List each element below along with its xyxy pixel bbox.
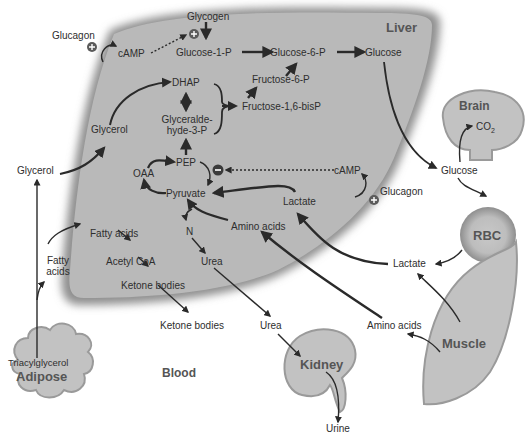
amino-acids-liver-label: Amino acids: [231, 221, 285, 232]
organ-rbc-label: RBC: [473, 228, 501, 243]
plus-icon-glucagon-top: [87, 42, 97, 52]
organ-kidney-label: Kidney: [300, 357, 343, 372]
organ-brain-label: Brain: [459, 99, 490, 113]
metabolism-diagram: Liver Brain RBC Muscle Kidney Adipose Bl…: [0, 0, 529, 442]
glucose-6-p-label: Glucose-6-P: [270, 47, 326, 58]
glucose-blood-label: Glucose: [441, 165, 478, 176]
glycogen-label: Glycogen: [187, 11, 229, 22]
ketone-bodies-liver-label: Ketone bodies: [121, 280, 185, 291]
fatty-acids-blood-label: Fatty acids: [44, 255, 72, 277]
camp-top-label: cAMP: [118, 48, 145, 59]
pyruvate-label: Pyruvate: [166, 188, 205, 199]
glyceraldehyde-3-p-label: Glyceralde- hyde-3-P: [158, 114, 216, 136]
pep-label: PEP: [176, 157, 196, 168]
fructose-16-bisp-label: Fructose-1,6-bisP: [242, 101, 321, 112]
organ-adipose-label: Adipose: [16, 369, 67, 384]
co2-subscript: 2: [491, 127, 495, 134]
glycerol-liver-label: Glycerol: [91, 124, 128, 135]
amino-acids-blood-label: Amino acids: [367, 320, 421, 331]
fructose-6-p-label: Fructose-6-P: [252, 74, 310, 85]
triacylglycerol-label: Triacylglycerol: [8, 357, 68, 368]
co2-label: CO2: [476, 121, 495, 136]
acetyl-coa-label: Acetyl CoA: [106, 256, 155, 267]
glucagon-top-label: Glucagon: [52, 30, 95, 41]
fatty-acids-line2: acids: [44, 266, 72, 277]
glyceraldehyde-line2: hyde-3-P: [158, 125, 216, 136]
urine-label: Urine: [326, 423, 350, 434]
urea-liver-label: Urea: [201, 256, 223, 267]
organ-liver-label: Liver: [386, 20, 417, 35]
n-label: N: [186, 226, 193, 237]
co2-text: CO: [476, 121, 491, 132]
plus-icon-glycogen: [189, 29, 199, 39]
glycerol-blood-label: Glycerol: [17, 165, 54, 176]
minus-icon-pep: [213, 165, 224, 176]
glucose-liver-label: Glucose: [365, 47, 402, 58]
lactate-blood-label: Lactate: [393, 258, 426, 269]
dhap-label: DHAP: [172, 77, 200, 88]
plus-icon-glucagon-mid: [369, 195, 379, 205]
muscle-shape: [423, 242, 517, 404]
glucagon-mid-label: Glucagon: [380, 186, 423, 197]
organ-muscle-label: Muscle: [442, 336, 486, 351]
urea-blood-label: Urea: [260, 320, 282, 331]
fatty-acids-liver-label: Fatty acids: [90, 228, 138, 239]
fatty-acids-line1: Fatty: [44, 255, 72, 266]
blood-label: Blood: [162, 366, 196, 380]
camp-mid-label: cAMP: [334, 165, 361, 176]
ketone-bodies-blood-label: Ketone bodies: [160, 320, 224, 331]
glyceraldehyde-line1: Glyceralde-: [158, 114, 216, 125]
glucose-1-p-label: Glucose-1-P: [176, 47, 232, 58]
oaa-label: OAA: [133, 168, 154, 179]
lactate-liver-label: Lactate: [283, 196, 316, 207]
